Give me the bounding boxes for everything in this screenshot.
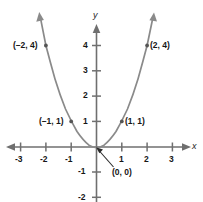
y-tick-label-neg2: -2 bbox=[78, 193, 86, 202]
y-axis-label: y bbox=[93, 11, 98, 20]
point-1-1 bbox=[120, 120, 124, 124]
origin-callout-arrow bbox=[96, 147, 114, 167]
x-axis-right-arrowhead bbox=[182, 143, 191, 151]
curve-left-arrowhead bbox=[36, 12, 44, 22]
point-2-4 bbox=[145, 44, 149, 48]
y-tick-label-neg1: -1 bbox=[78, 167, 86, 176]
x-tick-label-neg2: -2 bbox=[40, 155, 48, 164]
x-tick-label-3: 3 bbox=[169, 155, 174, 164]
x-tick-label-neg3: -3 bbox=[15, 155, 23, 164]
y-tick-label-2: 2 bbox=[83, 91, 88, 100]
y-axis bbox=[92, 24, 101, 202]
coordinate-plane-svg bbox=[0, 0, 203, 202]
x-tick-label-1: 1 bbox=[119, 155, 124, 164]
point-neg2-4 bbox=[44, 44, 48, 48]
x-tick-label-neg1: -1 bbox=[65, 155, 73, 164]
x-tick-label-2: 2 bbox=[144, 155, 149, 164]
y-tick-label-4: 4 bbox=[83, 41, 88, 50]
point-label-2-4: (2, 4) bbox=[150, 41, 170, 50]
graph-figure: x y -3 -2 -1 1 2 3 4 3 2 1 -1 -2 (–2, 4)… bbox=[0, 0, 203, 202]
point-label-0-0: (0, 0) bbox=[112, 168, 132, 177]
point-label-1-1: (1, 1) bbox=[125, 117, 145, 126]
y-tick-label-3: 3 bbox=[83, 66, 88, 75]
point-neg1-1 bbox=[69, 120, 73, 124]
x-axis-left-arrowhead bbox=[6, 143, 15, 151]
x-axis-label: x bbox=[192, 142, 197, 151]
y-tick-label-1: 1 bbox=[83, 117, 88, 126]
y-axis-top-arrowhead bbox=[93, 24, 101, 33]
point-label-neg1-1: (–1, 1) bbox=[39, 117, 64, 126]
point-label-neg2-4: (–2, 4) bbox=[13, 41, 38, 50]
curve-right-arrowhead bbox=[149, 13, 157, 22]
